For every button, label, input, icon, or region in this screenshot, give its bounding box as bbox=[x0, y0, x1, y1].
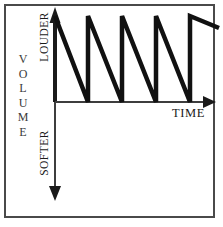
y-axis-softer-label: SOFTER bbox=[38, 130, 50, 176]
volume-letter-1: V bbox=[16, 52, 30, 67]
y-axis-volume-label: V O L U M E bbox=[16, 52, 30, 139]
volume-letter-3: L bbox=[16, 81, 30, 96]
volume-letter-4: U bbox=[16, 96, 30, 111]
volume-letter-6: E bbox=[16, 125, 30, 140]
volume-letter-5: M bbox=[16, 110, 30, 125]
sawtooth-waveform-trace bbox=[55, 16, 219, 102]
volume-letter-2: O bbox=[16, 67, 30, 82]
x-axis-time-label: TIME bbox=[172, 106, 205, 121]
y-axis-down-arrowhead-icon bbox=[49, 186, 61, 201]
waveform-diagram: LOUDER SOFTER V O L U M E TIME bbox=[0, 0, 223, 227]
y-axis-louder-label: LOUDER bbox=[38, 12, 50, 62]
